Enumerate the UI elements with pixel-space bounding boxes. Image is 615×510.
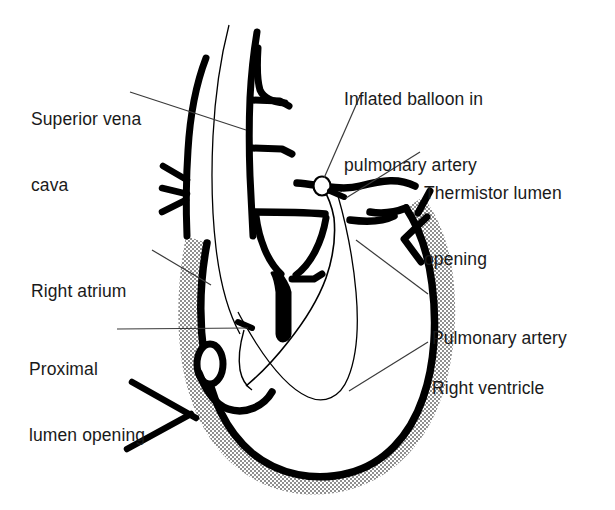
label-proximal-lumen: Proximal lumen opening xyxy=(29,314,145,490)
leader-pulmonary-artery xyxy=(356,240,428,294)
aortic-valve-left-cusp xyxy=(256,216,281,274)
interventricular-septum xyxy=(272,272,290,341)
azygos-branch-3 xyxy=(162,200,186,212)
label-superior-vena-cava-line1: Superior vena xyxy=(31,108,141,130)
thermistor-lumen-opening-marker xyxy=(330,191,344,197)
label-superior-vena-cava: Superior vena cava xyxy=(31,64,141,240)
svc-left-wall xyxy=(186,58,206,236)
leader-right-ventricle xyxy=(349,342,428,391)
label-thermistor-lumen-line1: Thermistor lumen xyxy=(424,182,562,204)
label-right-atrium-line1: Right atrium xyxy=(31,280,127,302)
label-inflated-balloon-line1: Inflated balloon in xyxy=(344,88,483,110)
innominate-vessel xyxy=(257,48,285,103)
label-right-ventricle-line1: Right ventricle xyxy=(432,377,544,399)
label-proximal-lumen-line1: Proximal xyxy=(29,358,145,380)
heart-catheter-figure: Superior vena cava Inflated balloon in p… xyxy=(0,0,615,510)
label-thermistor-lumen-line2: opening xyxy=(424,248,562,270)
label-proximal-lumen-line2: lumen opening xyxy=(29,424,145,446)
aortic-root-cup xyxy=(253,212,325,214)
label-right-ventricle: Right ventricle xyxy=(432,333,544,443)
proximal-lumen-opening-marker xyxy=(238,322,252,328)
catheter-proximal-shaft xyxy=(239,330,252,390)
great-vessel-branch-upper-2 xyxy=(252,148,292,154)
atrial-chamber-contour xyxy=(212,25,240,334)
label-superior-vena-cava-line2: cava xyxy=(31,174,141,196)
aortic-valve-right-cusp xyxy=(296,218,326,275)
